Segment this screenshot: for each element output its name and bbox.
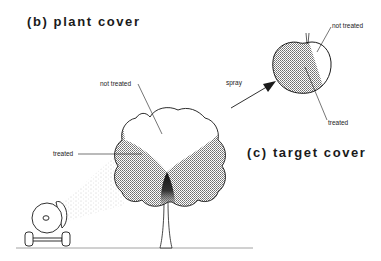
target-treated-label: treated [328, 119, 348, 126]
tree-trunk [160, 200, 172, 248]
illustration [0, 0, 381, 261]
diagram-canvas: (b) plant cover (c) target cover not tre… [0, 0, 381, 261]
sprayer-icon [25, 201, 70, 246]
target-not-treated-label: not treated [332, 22, 363, 29]
spray-label: spray [226, 79, 242, 86]
plant-treated-label: treated [53, 150, 73, 157]
panel-c-title: (c) target cover [247, 145, 367, 160]
plant-not-treated-label: not treated [100, 80, 131, 87]
panel-b-title: (b) plant cover [27, 14, 141, 29]
tree-crown [115, 104, 226, 206]
